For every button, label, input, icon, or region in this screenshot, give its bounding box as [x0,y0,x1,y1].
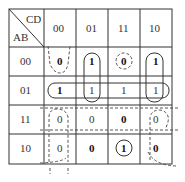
cell-10-11: 1 [121,142,127,154]
cell-00-11: 0 [121,55,127,67]
col-header-11: 11 [118,22,129,34]
col-header-10: 10 [149,22,161,34]
cell-10-01: 0 [89,142,95,154]
row-header-00: 00 [20,55,32,67]
cell-01-10: 1 [153,84,159,96]
row-variable-label: AB [13,31,28,43]
cell-00-10: 1 [153,55,159,67]
cell-01-01: 1 [89,84,95,96]
row-header-10: 10 [20,142,32,154]
cell-01-11: 1 [121,84,127,96]
cell-01-00: 1 [57,84,63,96]
row-header-01: 01 [20,84,31,96]
karnaugh-map: CD AB 00 01 11 10 00 01 11 10 0 1 0 1 1 … [0,0,185,182]
cell-00-01: 1 [89,55,95,67]
col-header-00: 00 [53,22,65,34]
cell-11-11: 0 [121,113,127,125]
cell-10-00: 0 [57,142,63,154]
cell-00-00: 0 [57,55,63,67]
row-header-11: 11 [20,113,31,125]
cell-11-10: 0 [153,113,159,125]
col-header-01: 01 [86,22,97,34]
cell-11-01: 0 [89,113,95,125]
cell-10-10: 0 [153,142,159,154]
col-variable-label: CD [26,13,41,25]
cell-11-00: 0 [57,113,63,125]
